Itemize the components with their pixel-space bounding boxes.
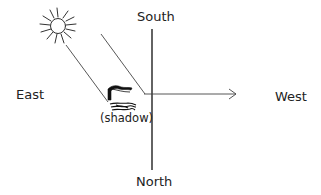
label-north: North [136, 175, 172, 188]
label-west: West [275, 90, 307, 103]
flag-icon [108, 86, 132, 100]
sunlight-ray-parallel [101, 34, 145, 94]
label-south: South [137, 10, 175, 23]
shadow-shape [110, 103, 136, 110]
sun-icon [40, 8, 76, 43]
compass-shadow-diagram: South North East West (shadow) [0, 0, 321, 195]
east-west-arrow [144, 89, 236, 99]
sunlight-ray [66, 45, 108, 102]
label-shadow: (shadow) [100, 113, 153, 125]
diagram-svg [0, 0, 321, 195]
label-east: East [16, 88, 44, 101]
